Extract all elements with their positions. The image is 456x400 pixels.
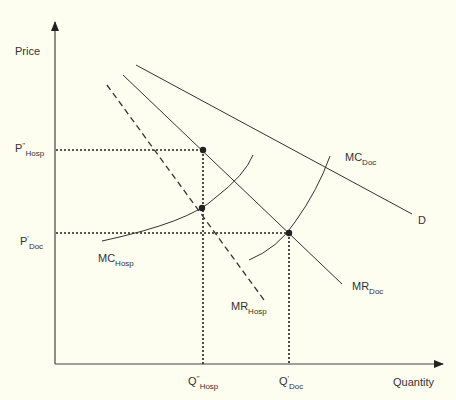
x-axis-label: Quantity [393, 377, 434, 388]
mc-hosp-label: MCHosp [98, 253, 134, 268]
demand-label: D [418, 215, 426, 226]
hosp-mc-mr-intersection [199, 205, 205, 211]
y-axis-label: Price [15, 46, 40, 57]
mr-doc-label: MRDoc [352, 281, 383, 296]
demand-curve [136, 65, 412, 214]
mr-doc-curve [123, 75, 342, 284]
p-hosp-label: P''Hosp [15, 142, 44, 158]
doc-mc-mr-intersection [286, 230, 292, 236]
q-hosp-label: Q''Hosp [188, 375, 218, 391]
mc-doc-curve [249, 156, 330, 260]
hosp-price-point [200, 147, 206, 153]
diagram-canvas [0, 0, 456, 400]
q-doc-label: Q'Doc [279, 375, 303, 391]
p-doc-label: P'Doc [20, 235, 43, 251]
mr-hosp-label: MRHosp [231, 301, 267, 316]
mc-doc-label: MCDoc [345, 152, 376, 167]
mc-hosp-curve [102, 155, 253, 241]
